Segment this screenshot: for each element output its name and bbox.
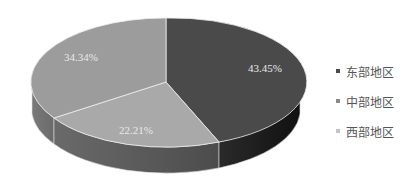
label-east: 43.45% <box>248 62 282 74</box>
legend-label: 中部地区 <box>346 93 394 110</box>
legend-item-west[interactable]: 西部地区 <box>336 116 394 146</box>
legend-label: 西部地区 <box>346 123 394 140</box>
legend-swatch-icon <box>336 129 340 133</box>
pie-top <box>31 18 307 147</box>
legend: 东部地区 中部地区 西部地区 <box>336 56 394 146</box>
legend-swatch-icon <box>336 99 340 103</box>
legend-item-central[interactable]: 中部地区 <box>336 86 394 116</box>
legend-swatch-icon <box>336 69 340 73</box>
label-west: 34.34% <box>64 51 98 63</box>
label-central: 22.21% <box>119 124 153 136</box>
legend-item-east[interactable]: 东部地区 <box>336 56 394 86</box>
legend-label: 东部地区 <box>346 63 394 80</box>
